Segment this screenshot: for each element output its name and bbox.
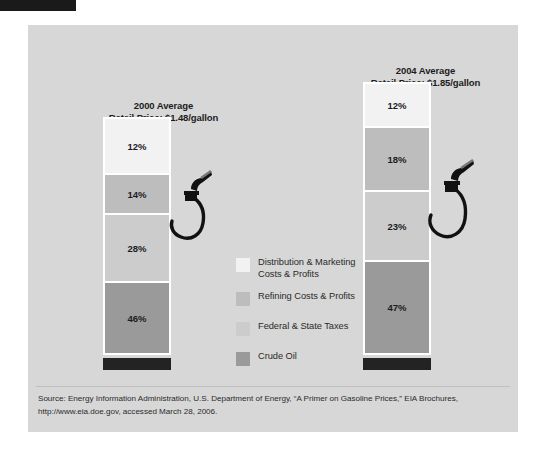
gas-pump-nozzle-icon-2000: [161, 153, 213, 265]
legend-item-taxes[interactable]: Federal & State Taxes: [236, 321, 376, 336]
legend-swatch-crude: [236, 352, 250, 366]
legend-label-line1: Federal & State Taxes: [258, 321, 348, 331]
legend-item-distribution[interactable]: Distribution & Marketing Costs & Profits: [236, 257, 376, 280]
legend-swatch-taxes: [236, 322, 250, 336]
bar-segment-refining-2000[interactable]: 14%: [105, 175, 169, 213]
legend-label-line1: Distribution & Marketing: [258, 257, 356, 267]
bar-segment-value: 28%: [127, 243, 146, 254]
bar-segment-refining-2004[interactable]: 18%: [365, 128, 429, 190]
source-line-2: http://www.eia.doe.gov, accessed March 2…: [38, 405, 514, 418]
bar-segment-value: 14%: [127, 189, 146, 200]
bar-segment-distribution-2004[interactable]: 12%: [365, 84, 429, 126]
source-note: Source: Energy Information Administratio…: [38, 392, 514, 418]
pump-base-2000: [103, 358, 171, 370]
figure-root: 2000 Average Retail Price: $1.48/gallon …: [0, 0, 551, 454]
legend-label-line1: Refining Costs & Profits: [258, 291, 355, 301]
bar-segment-distribution-2000[interactable]: 12%: [105, 119, 169, 173]
legend-item-refining[interactable]: Refining Costs & Profits: [236, 291, 376, 306]
bar-segment-value: 12%: [387, 100, 406, 111]
bar-segment-value: 18%: [387, 154, 406, 165]
legend-label-distribution: Distribution & Marketing Costs & Profits: [258, 257, 356, 280]
source-line-1: Source: Energy Information Administratio…: [38, 392, 514, 405]
legend-swatch-refining: [236, 292, 250, 306]
legend: Distribution & Marketing Costs & Profits…: [236, 257, 376, 366]
bar-segment-taxes-2000[interactable]: 28%: [105, 215, 169, 281]
legend-label-line1: Crude Oil: [258, 351, 297, 361]
legend-item-crude[interactable]: Crude Oil: [236, 351, 376, 366]
bar-segment-value: 47%: [387, 302, 406, 313]
bar-segment-crude-2000[interactable]: 46%: [105, 283, 169, 353]
page-corner-mark: [0, 0, 76, 11]
chart-title-line1: 2000 Average: [71, 100, 256, 112]
chart-title-line1: 2004 Average: [333, 65, 518, 77]
legend-label-taxes: Federal & State Taxes: [258, 321, 348, 333]
bar-segment-value: 23%: [387, 221, 406, 232]
legend-swatch-distribution: [236, 258, 250, 272]
legend-label-refining: Refining Costs & Profits: [258, 291, 355, 303]
figure-panel: 2000 Average Retail Price: $1.48/gallon …: [28, 25, 518, 432]
gas-pump-nozzle-icon-2004: [421, 143, 475, 263]
legend-label-line2: Costs & Profits: [258, 269, 319, 279]
legend-label-crude: Crude Oil: [258, 351, 297, 363]
bar-segment-value: 12%: [127, 141, 146, 152]
bar-segment-value: 46%: [127, 313, 146, 324]
bar-segment-taxes-2004[interactable]: 23%: [365, 192, 429, 260]
footer-divider: [36, 386, 510, 387]
